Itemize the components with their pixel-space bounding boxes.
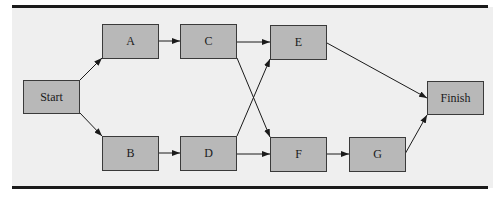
node-f: F (270, 137, 327, 172)
edge-g-finish (405, 115, 427, 154)
node-g: G (349, 137, 406, 172)
node-label: D (204, 146, 213, 161)
node-c: C (180, 24, 237, 59)
node-e: E (270, 25, 327, 60)
node-label: C (204, 34, 212, 49)
node-label: E (295, 35, 302, 50)
node-d: D (180, 136, 237, 171)
node-start: Start (23, 80, 80, 114)
node-label: Finish (440, 91, 470, 106)
node-a: A (102, 24, 159, 59)
node-b: B (102, 136, 159, 171)
edge-start-b (80, 113, 102, 136)
node-label: G (373, 147, 382, 162)
edge-start-a (80, 58, 102, 80)
node-label: Start (40, 90, 63, 105)
edge-e-finish (327, 43, 427, 98)
node-label: A (126, 34, 135, 49)
node-label: B (126, 146, 134, 161)
node-finish: Finish (427, 81, 484, 115)
node-label: F (295, 147, 302, 162)
